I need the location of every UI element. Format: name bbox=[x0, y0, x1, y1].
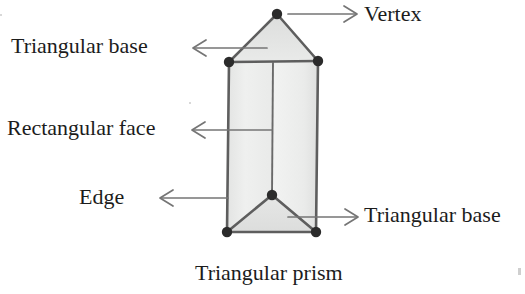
label-vertex: Vertex bbox=[364, 3, 421, 25]
scan-speck bbox=[189, 102, 191, 104]
scan-speck bbox=[518, 268, 521, 275]
edge-top-front bbox=[229, 61, 318, 62]
scan-speck bbox=[0, 14, 2, 16]
vertex-bottom-right bbox=[311, 227, 321, 237]
label-triangular-base-top: Triangular base bbox=[11, 35, 148, 57]
arrow-vertex bbox=[288, 6, 357, 22]
figure-caption: Triangular prism bbox=[195, 262, 343, 284]
label-rectangular-face: Rectangular face bbox=[7, 117, 155, 139]
edge-middle-vertical bbox=[272, 62, 273, 195]
arrow-edge bbox=[160, 190, 228, 206]
label-triangular-base-bottom: Triangular base bbox=[364, 204, 501, 226]
top-triangular-face bbox=[229, 14, 318, 62]
vertex-top-left bbox=[224, 57, 234, 67]
vertex-bottom-mid bbox=[267, 190, 277, 200]
vertex-top-right bbox=[313, 56, 323, 66]
label-edge: Edge bbox=[79, 186, 124, 208]
vertex-apex bbox=[272, 9, 282, 19]
vertex-bottom-left bbox=[222, 227, 232, 237]
figure-page: Vertex Triangular base Rectangular face … bbox=[0, 0, 525, 294]
